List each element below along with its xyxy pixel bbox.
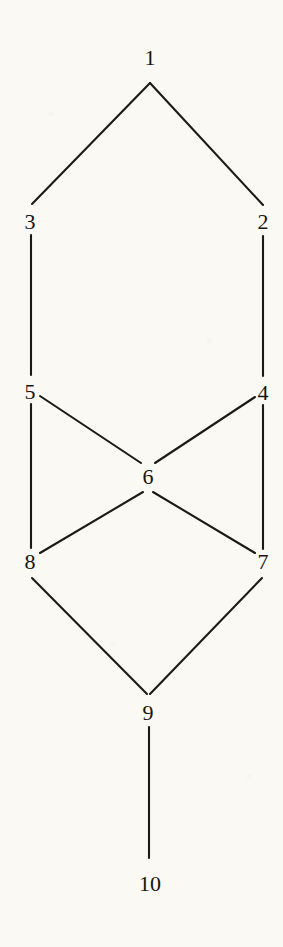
node-label-2: 2 xyxy=(258,211,269,233)
edge-5-6 xyxy=(40,396,141,463)
node-label-4: 4 xyxy=(258,382,269,404)
node-label-5: 5 xyxy=(25,381,36,403)
node-label-10: 10 xyxy=(139,873,161,895)
node-label-7: 7 xyxy=(258,551,269,573)
node-label-3: 3 xyxy=(25,211,36,233)
node-label-9: 9 xyxy=(143,702,154,724)
node-label-6: 6 xyxy=(143,466,154,488)
edge-7-9 xyxy=(150,578,262,694)
edge-6-7 xyxy=(153,492,255,553)
edge-4-6 xyxy=(155,397,255,463)
edge-6-8 xyxy=(40,492,143,553)
node-label-1: 1 xyxy=(145,47,156,69)
edge-8-9 xyxy=(32,578,147,694)
edge-1-2 xyxy=(150,83,263,205)
graph-edges-canvas xyxy=(0,0,283,947)
edge-1-3 xyxy=(32,83,150,204)
node-label-8: 8 xyxy=(25,551,36,573)
diagram-figure: 12345678910 xyxy=(0,0,283,947)
